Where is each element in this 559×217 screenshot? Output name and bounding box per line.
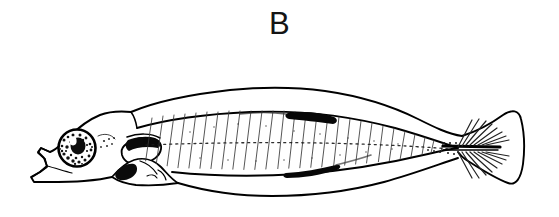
illustration-ink bbox=[31, 88, 524, 196]
nape-line bbox=[131, 112, 137, 128]
dorsal-melanophore-patch bbox=[285, 112, 336, 124]
ventral-pigment-feather bbox=[336, 155, 371, 165]
ventral-finfold bbox=[178, 158, 458, 196]
snout-profile bbox=[38, 148, 50, 159]
dorsal-pigment-feather bbox=[240, 113, 286, 115]
mouth-cleft bbox=[47, 166, 72, 173]
fish-larva-illustration bbox=[0, 0, 559, 217]
notochord bbox=[443, 146, 500, 147]
opercle-arc bbox=[98, 134, 115, 139]
eye-highlight bbox=[69, 137, 76, 146]
head-stipple bbox=[100, 137, 115, 148]
ventral-melanophore-streak bbox=[283, 165, 340, 178]
figure-panel: B bbox=[0, 0, 559, 217]
